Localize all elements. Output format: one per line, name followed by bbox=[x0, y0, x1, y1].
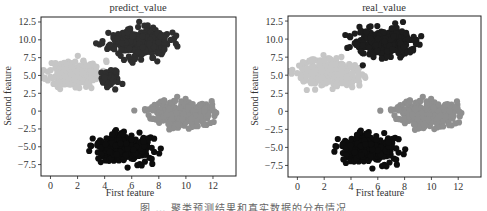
y-tick-label: 2.5 bbox=[271, 88, 284, 99]
y-tick-label: 10.0 bbox=[266, 34, 284, 45]
y-tick-label: 0 bbox=[31, 106, 36, 117]
x-tick-label: 10 bbox=[181, 180, 191, 191]
y-tick-label: 7.5 bbox=[24, 52, 37, 63]
y-tick-label: 12.5 bbox=[19, 16, 37, 27]
y-tick-label: −7.5 bbox=[265, 160, 283, 171]
x-tick-label: 2 bbox=[75, 180, 80, 191]
subplot-real: real_value 12.510.07.55.02.50−2.5−5.0−7.… bbox=[249, 2, 481, 198]
y-tick-label: −5.0 bbox=[18, 141, 36, 152]
plot-area-predict bbox=[34, 19, 220, 171]
plot-area-real bbox=[279, 19, 465, 172]
figure: predict_value 12.510.07.55.02.50−2.5−5.0… bbox=[0, 0, 487, 211]
figure-caption: 图 … 聚类预测结果和真实数据的分布情况 bbox=[0, 200, 487, 211]
y-tick-label: −2.5 bbox=[265, 124, 283, 135]
x-tick-label: 0 bbox=[295, 181, 300, 192]
y-axis-predict: 12.510.07.55.02.50−2.5−5.0−7.5 bbox=[18, 16, 41, 170]
y-tick-label: 5.0 bbox=[271, 70, 284, 81]
scatter-series-cluster_black bbox=[86, 127, 164, 171]
y-axis-real: 12.510.07.55.02.50−2.5−5.0−7.5 bbox=[265, 16, 288, 171]
scatter-series-cluster_dark bbox=[342, 19, 424, 69]
y-tick-label: 10.0 bbox=[19, 34, 37, 45]
y-tick-label: 0 bbox=[278, 106, 283, 117]
y-axis-label-predict: Second feature bbox=[2, 66, 13, 126]
subplot-title-predict: predict_value bbox=[109, 2, 166, 13]
y-tick-label: −5.0 bbox=[265, 142, 283, 153]
y-tick-label: −2.5 bbox=[18, 123, 36, 134]
x-tick-label: 4 bbox=[348, 181, 353, 192]
subplot-predict: predict_value 12.510.07.55.02.50−2.5−5.0… bbox=[2, 2, 236, 198]
scatter-series-cluster_dark_tail bbox=[98, 67, 125, 93]
scatter-series-cluster_light bbox=[279, 52, 369, 93]
x-axis-label-real: First feature bbox=[356, 187, 405, 198]
x-axis-label-predict: First feature bbox=[106, 187, 155, 198]
y-axis-label-real: Second feature bbox=[249, 66, 260, 126]
y-tick-label: 12.5 bbox=[266, 16, 284, 27]
scatter-series-cluster_black bbox=[331, 127, 408, 171]
x-tick-label: 12 bbox=[453, 181, 463, 192]
y-tick-label: 5.0 bbox=[24, 70, 37, 81]
y-tick-label: 2.5 bbox=[24, 88, 37, 99]
subplot-title-real: real_value bbox=[362, 2, 406, 13]
y-tick-label: 7.5 bbox=[271, 52, 284, 63]
x-tick-label: 0 bbox=[48, 180, 53, 191]
scatter-series-cluster_mid bbox=[131, 94, 219, 133]
x-tick-label: 8 bbox=[156, 180, 161, 191]
x-tick-label: 12 bbox=[208, 180, 218, 191]
scatter-series-cluster_mid bbox=[377, 94, 464, 133]
y-tick-label: −7.5 bbox=[18, 159, 36, 170]
x-tick-label: 2 bbox=[322, 181, 327, 192]
x-tick-label: 10 bbox=[426, 181, 436, 192]
